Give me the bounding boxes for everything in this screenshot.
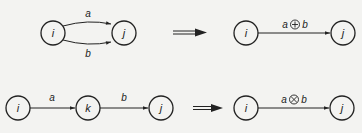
node-k-label: k <box>85 102 91 114</box>
edge-left-operand: a <box>281 94 287 105</box>
node-j-label: j <box>339 102 344 114</box>
rule-series-before: i k j a b <box>6 92 173 120</box>
diagram-canvas: i j a b i j a b i k j a b <box>0 0 362 133</box>
edge-a-label: a <box>49 92 55 103</box>
edge-a <box>63 22 111 26</box>
rule-series-after: i j a b <box>234 94 354 120</box>
edge-a-label: a <box>85 8 91 19</box>
node-i-label: i <box>17 102 20 114</box>
edge-b-label: b <box>121 92 127 103</box>
edge-b <box>63 40 111 44</box>
node-j-label: j <box>340 27 345 39</box>
node-i-label: i <box>245 102 248 114</box>
node-i-label: i <box>52 27 55 39</box>
edge-b-label: b <box>85 48 91 59</box>
edge-right-operand: b <box>302 19 308 30</box>
rule-parallel-after: i j a b <box>234 19 355 45</box>
rule-parallel-before: i j a b <box>41 8 136 59</box>
edge-right-operand: b <box>301 94 307 105</box>
implies-arrow-2 <box>193 104 223 112</box>
node-i-label: i <box>245 27 248 39</box>
node-j-label: j <box>121 27 126 39</box>
edge-left-operand: a <box>282 19 288 30</box>
node-j-label: j <box>158 102 163 114</box>
implies-arrow-1 <box>173 29 207 37</box>
